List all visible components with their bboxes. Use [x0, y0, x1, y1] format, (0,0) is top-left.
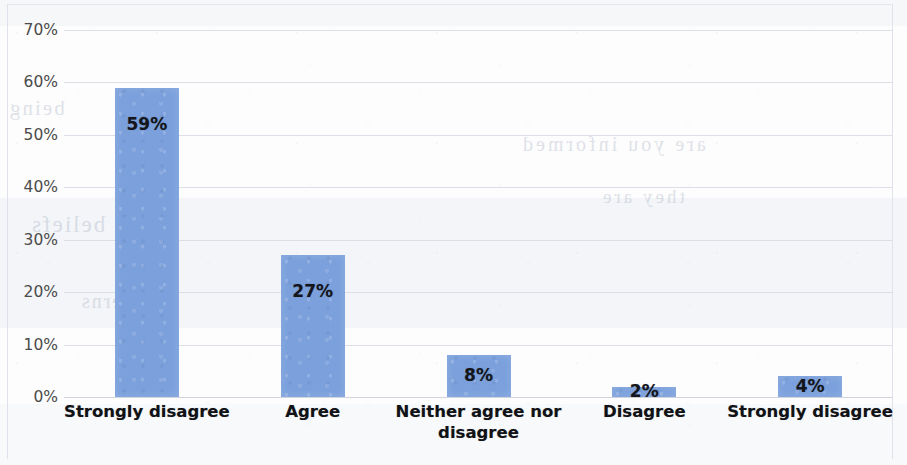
gridline — [64, 397, 893, 398]
gridline — [64, 135, 893, 136]
bar[interactable] — [281, 255, 345, 397]
bar-value-label: 8% — [464, 365, 493, 385]
gridline — [64, 240, 893, 241]
bar-value-label: 2% — [630, 381, 659, 401]
y-axis-tick-label: 70% — [6, 21, 58, 39]
y-axis-tick-label: 30% — [6, 231, 58, 249]
x-axis-category-label: Neither agree nor disagree — [396, 401, 562, 443]
x-axis-category-label: Strongly disagree — [64, 401, 230, 422]
gridline — [64, 345, 893, 346]
x-axis-category-label: Disagree — [561, 401, 727, 422]
bar-value-label: 27% — [292, 281, 333, 301]
bar[interactable] — [115, 88, 179, 397]
y-axis-tick-label: 0% — [6, 388, 58, 406]
x-axis-category-label: Agree — [230, 401, 396, 422]
y-axis-tick-label: 60% — [6, 73, 58, 91]
y-axis-tick-label: 10% — [6, 336, 58, 354]
x-axis: Strongly disagreeAgreeNeither agree nor … — [64, 401, 893, 463]
y-axis-tick-label: 40% — [6, 178, 58, 196]
x-axis-category-label: Strongly disagree — [727, 401, 893, 422]
bar-value-label: 4% — [796, 376, 825, 396]
y-axis: 70%60%50%40%30%20%10%0% — [8, 30, 58, 397]
gridline — [64, 82, 893, 83]
y-axis-tick-label: 20% — [6, 283, 58, 301]
gridline — [64, 30, 893, 31]
bar-value-label: 59% — [127, 114, 168, 134]
scanned-chart-page: being are you informed beliefs concerns … — [0, 0, 907, 465]
y-axis-tick-label: 50% — [6, 126, 58, 144]
gridline — [64, 187, 893, 188]
gridline — [64, 292, 893, 293]
plot-area: 59%27%8%2%4% — [64, 30, 893, 397]
bar-chart: 70%60%50%40%30%20%10%0% 59%27%8%2%4% Str… — [7, 4, 893, 459]
